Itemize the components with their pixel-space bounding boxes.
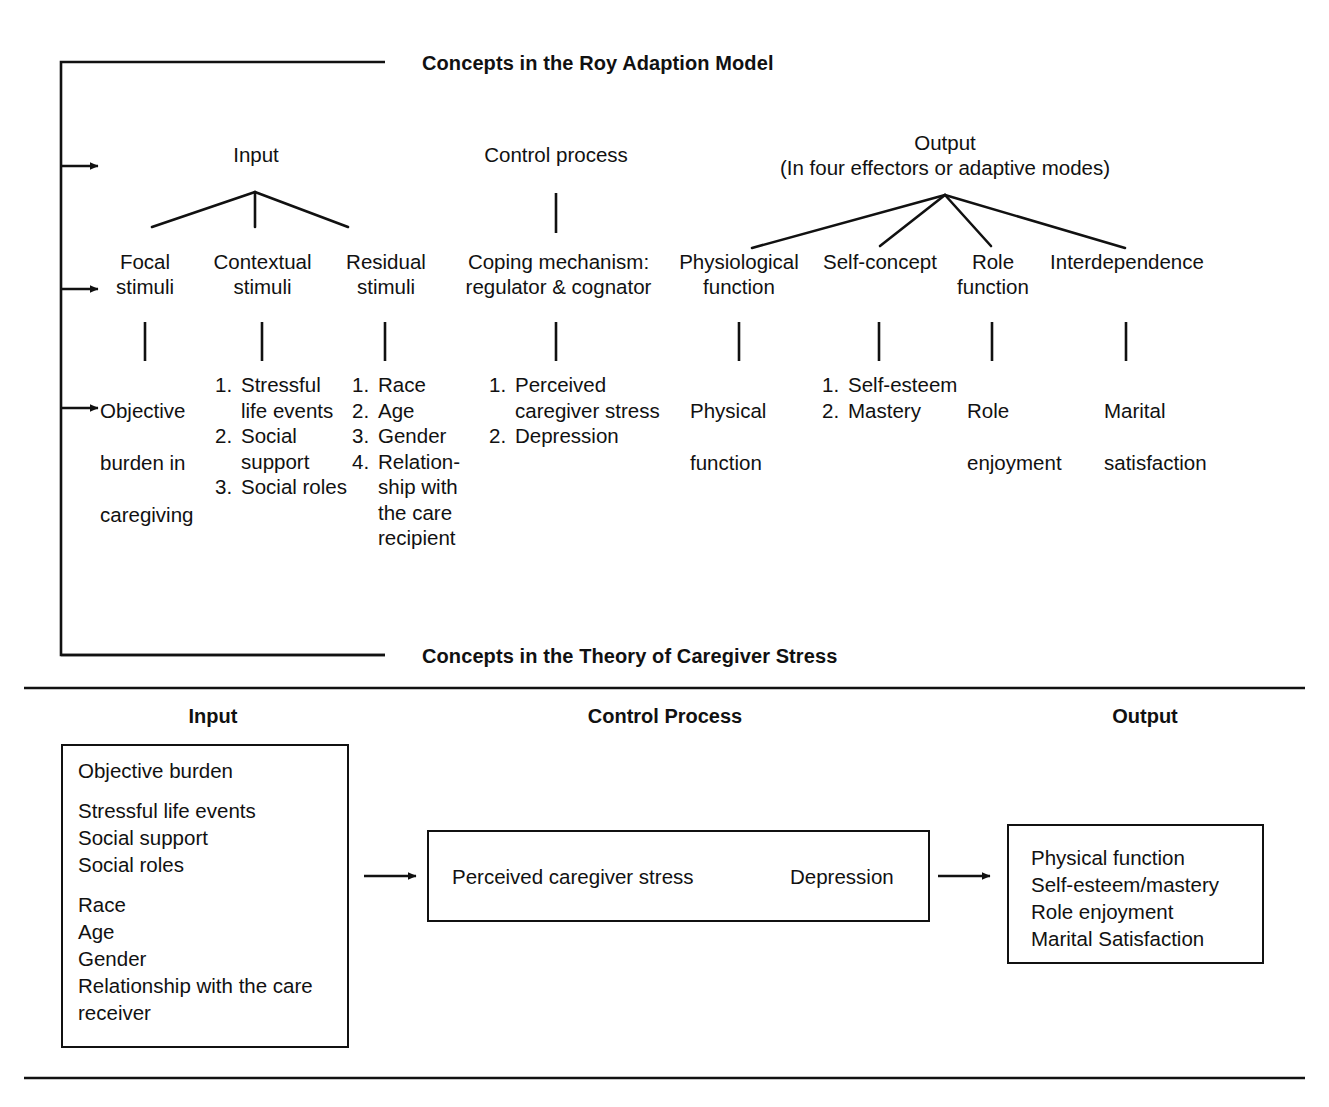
list-text: Self-esteem bbox=[848, 372, 962, 398]
list-text: Gender bbox=[378, 423, 470, 449]
input-item: Social support bbox=[78, 824, 350, 851]
detail-residual-list: 1. Race 2. Age 3. Gender 4. Relation-shi… bbox=[352, 372, 470, 551]
list-text: Stressful life events bbox=[241, 372, 347, 423]
list-item: 1. Stressful life events bbox=[215, 372, 347, 423]
list-item: 2. Age bbox=[352, 398, 470, 424]
output-item: Marital Satisfaction bbox=[1031, 925, 1271, 952]
detail-line: function bbox=[690, 450, 810, 476]
output-box-content: Physical function Self-esteem/mastery Ro… bbox=[1031, 844, 1271, 952]
list-item: 2. Social support bbox=[215, 423, 347, 474]
detail-line: Marital bbox=[1104, 398, 1264, 424]
input-item: Race bbox=[78, 891, 350, 918]
column-header-control-process: Control Process bbox=[545, 705, 785, 728]
input-item: Relationship with the care bbox=[78, 972, 350, 999]
group-title-input: Input bbox=[180, 142, 332, 167]
output-item: Physical function bbox=[1031, 844, 1271, 871]
list-text: Social support bbox=[241, 423, 347, 474]
spacer bbox=[78, 878, 350, 891]
spacer bbox=[78, 784, 350, 797]
list-number: 2. bbox=[215, 423, 241, 449]
control-box-perceived-stress: Perceived caregiver stress bbox=[452, 864, 702, 889]
node-interdependence: Interdependence bbox=[1036, 249, 1218, 274]
detail-role-enjoyment: Role enjoyment bbox=[967, 372, 1093, 502]
list-text: Race bbox=[378, 372, 470, 398]
list-item: 1. Self-esteem bbox=[822, 372, 962, 398]
detail-physical-function: Physical function bbox=[690, 372, 810, 502]
list-number: 1. bbox=[352, 372, 378, 398]
list-number: 1. bbox=[215, 372, 241, 398]
control-box-depression: Depression bbox=[790, 864, 950, 889]
list-text: Mastery bbox=[848, 398, 962, 424]
node-focal-stimuli: Focal stimuli bbox=[95, 249, 195, 299]
input-item: Stressful life events bbox=[78, 797, 350, 824]
list-text: Age bbox=[378, 398, 470, 424]
detail-self-concept-list: 1. Self-esteem 2. Mastery bbox=[822, 372, 962, 423]
input-box-content: Objective burden Stressful life events S… bbox=[78, 757, 350, 1026]
detail-marital-satisfaction: Marital satisfaction bbox=[1104, 372, 1264, 502]
node-role-function: Role function bbox=[944, 249, 1042, 299]
column-header-output: Output bbox=[1050, 705, 1240, 728]
node-contextual-stimuli: Contextual stimuli bbox=[190, 249, 335, 299]
detail-line: burden in bbox=[100, 450, 210, 476]
list-text: Depression bbox=[515, 423, 679, 449]
input-item: Age bbox=[78, 918, 350, 945]
list-number: 4. bbox=[352, 449, 378, 475]
list-item: 3. Social roles bbox=[215, 474, 347, 500]
column-header-input: Input bbox=[118, 705, 308, 728]
roy-model-section-title: Concepts in the Roy Adaption Model bbox=[422, 52, 774, 75]
detail-line: caregiving bbox=[100, 502, 210, 528]
output-fan-lines bbox=[752, 195, 1125, 248]
figure-canvas: Concepts in the Roy Adaption Model Input… bbox=[0, 0, 1329, 1107]
list-number: 3. bbox=[215, 474, 241, 500]
output-item: Self-esteem/mastery bbox=[1031, 871, 1271, 898]
list-item: 1. Perceived caregiver stress bbox=[489, 372, 679, 423]
input-item: Social roles bbox=[78, 851, 350, 878]
node-coping-mechanism: Coping mechanism: regulator & cognator bbox=[456, 249, 661, 299]
list-text: Perceived caregiver stress bbox=[515, 372, 679, 423]
list-number: 2. bbox=[489, 423, 515, 449]
list-item: 1. Race bbox=[352, 372, 470, 398]
detail-line: satisfaction bbox=[1104, 450, 1264, 476]
output-item: Role enjoyment bbox=[1031, 898, 1271, 925]
input-fan-lines bbox=[152, 192, 348, 227]
tier-connector-ticks bbox=[145, 322, 1126, 361]
list-item: 3. Gender bbox=[352, 423, 470, 449]
group-subtitle-output: (In four effectors or adaptive modes) bbox=[720, 155, 1170, 180]
detail-coping-list: 1. Perceived caregiver stress 2. Depress… bbox=[489, 372, 679, 449]
list-number: 1. bbox=[822, 372, 848, 398]
node-self-concept: Self-concept bbox=[812, 249, 948, 274]
list-item: 2. Mastery bbox=[822, 398, 962, 424]
list-number: 3. bbox=[352, 423, 378, 449]
detail-objective-burden: Objective burden in caregiving bbox=[100, 372, 210, 554]
input-item: Gender bbox=[78, 945, 350, 972]
detail-contextual-list: 1. Stressful life events 2. Social suppo… bbox=[215, 372, 347, 500]
detail-line: Objective bbox=[100, 398, 210, 424]
group-title-control-process: Control process bbox=[466, 142, 646, 167]
detail-line: Physical bbox=[690, 398, 810, 424]
node-physiological-function: Physiological function bbox=[668, 249, 810, 299]
list-number: 2. bbox=[352, 398, 378, 424]
list-item: 2. Depression bbox=[489, 423, 679, 449]
bracket-arrows bbox=[61, 166, 98, 408]
caregiver-theory-section-title: Concepts in the Theory of Caregiver Stre… bbox=[422, 645, 837, 668]
detail-line: enjoyment bbox=[967, 450, 1093, 476]
list-number: 1. bbox=[489, 372, 515, 398]
node-residual-stimuli: Residual stimuli bbox=[330, 249, 442, 299]
list-number: 2. bbox=[822, 398, 848, 424]
list-text: Social roles bbox=[241, 474, 347, 500]
list-text: Relation-ship with the care recipient bbox=[378, 449, 470, 551]
detail-line: Role bbox=[967, 398, 1093, 424]
input-item: Objective burden bbox=[78, 757, 350, 784]
list-item: 4. Relation-ship with the care recipient bbox=[352, 449, 470, 551]
input-item: receiver bbox=[78, 999, 350, 1026]
group-title-output: Output bbox=[845, 130, 1045, 155]
